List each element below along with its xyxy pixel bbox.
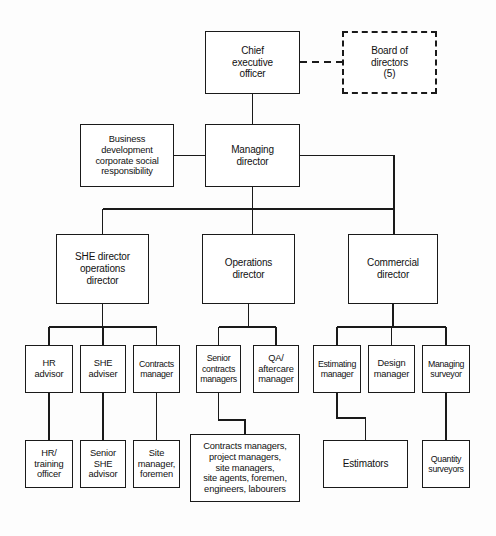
edge-senior-staff [219, 393, 246, 434]
edge-md-commercial [300, 156, 394, 235]
node-business-development[interactable]: Business development corporate social re… [80, 124, 174, 187]
node-board-of-directors[interactable]: Board of directors (5) [342, 31, 437, 94]
node-commercial-director[interactable]: Commercial director [348, 234, 438, 304]
node-she-director[interactable]: SHE director operations director [56, 234, 149, 304]
node-senior-she-advisor[interactable]: Senior SHE advisor [80, 440, 126, 488]
node-estimators[interactable]: Estimators [323, 440, 408, 488]
node-hr-training-officer[interactable]: HR/ training officer [25, 440, 73, 488]
node-senior-contracts-managers[interactable]: Senior contracts managers [196, 345, 241, 393]
node-estimating-manager[interactable]: Estimating manager [313, 345, 361, 393]
org-chart: Chief executive officer Board of directo… [0, 0, 496, 536]
node-hr-advisor[interactable]: HR advisor [25, 345, 73, 393]
node-site-manager-foremen[interactable]: Site manager, foremen [133, 440, 180, 488]
node-contracts-manager[interactable]: Contracts manager [133, 345, 180, 393]
node-operations-director[interactable]: Operations director [202, 234, 295, 304]
node-managing-surveyor[interactable]: Managing surveyor [422, 345, 470, 393]
node-design-manager[interactable]: Design manager [368, 345, 415, 393]
node-managing-director[interactable]: Managing director [205, 124, 300, 187]
node-she-adviser[interactable]: SHE adviser [80, 345, 126, 393]
node-quantity-surveyors[interactable]: Quantity surveyors [422, 440, 470, 488]
node-qa-aftercare-manager[interactable]: QA/ aftercare manager [253, 345, 299, 393]
node-site-staff[interactable]: Contracts managers, project managers, si… [190, 434, 300, 502]
edge-estimating-estimators [337, 393, 366, 440]
node-chief-executive-officer[interactable]: Chief executive officer [205, 31, 300, 94]
